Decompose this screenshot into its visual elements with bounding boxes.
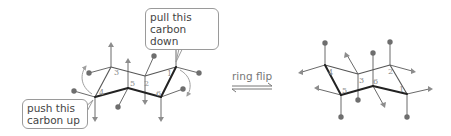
svg-text:5: 5 — [130, 79, 135, 88]
triangle-substituent — [344, 52, 350, 58]
circle-substituent — [338, 114, 343, 119]
svg-text:3: 3 — [114, 68, 119, 77]
svg-text:2: 2 — [388, 67, 393, 76]
triangle-substituent — [108, 42, 114, 47]
pull-carbon-down-callout: pull this carbon down — [145, 8, 219, 50]
push-carbon-up-callout: push this carbon up — [22, 99, 88, 129]
svg-text:3: 3 — [359, 76, 364, 85]
circle-substituent — [180, 86, 185, 91]
triangle-substituent — [158, 117, 164, 122]
svg-text:4: 4 — [328, 68, 333, 77]
svg-text:1: 1 — [167, 69, 172, 78]
circle-substituent — [196, 70, 201, 75]
right-ring-front-bonds — [325, 65, 407, 95]
circle-substituent — [387, 39, 392, 44]
svg-text:5: 5 — [342, 86, 347, 95]
triangle-substituent — [298, 69, 303, 75]
right-substituent-bonds — [302, 42, 429, 117]
right-chair: 4 5 3 6 2 1 — [298, 39, 433, 119]
circle-substituent — [71, 88, 76, 93]
circle-substituent — [404, 114, 409, 119]
circle-substituent — [151, 53, 156, 58]
triangle-substituent — [380, 102, 386, 108]
right-triangle-substituents — [298, 52, 433, 108]
left-substituent-bonds — [74, 46, 199, 118]
ring-flip-label: ring flip — [232, 70, 272, 82]
circle-substituent — [355, 97, 360, 102]
svg-text:4: 4 — [99, 88, 104, 97]
triangle-substituent — [314, 85, 319, 91]
circle-substituent — [370, 50, 375, 55]
triangle-substituent — [411, 68, 416, 74]
svg-text:1: 1 — [399, 85, 404, 94]
svg-text:2: 2 — [144, 79, 149, 88]
svg-text:6: 6 — [373, 77, 378, 86]
equilibrium-arrows-icon — [232, 83, 272, 92]
left-triangle-substituents — [92, 42, 179, 122]
svg-text:6: 6 — [156, 89, 161, 98]
curved-arrow-icon — [180, 70, 190, 96]
circle-substituent — [115, 104, 120, 109]
right-circle-substituents — [322, 39, 409, 119]
triangle-substituent — [92, 117, 98, 122]
circle-substituent — [322, 40, 327, 45]
triangle-substituent — [142, 100, 148, 105]
curved-arrow-icon — [82, 66, 92, 94]
triangle-substituent — [428, 86, 433, 92]
triangle-substituent — [125, 58, 131, 63]
left-circle-substituents — [71, 53, 201, 109]
circle-substituent — [86, 70, 91, 75]
left-ring-front-bonds — [95, 67, 176, 97]
